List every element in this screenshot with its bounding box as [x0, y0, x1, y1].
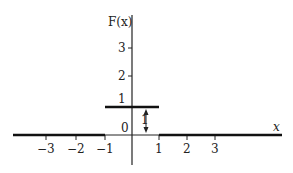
- y-axis-label: F(x): [108, 15, 132, 29]
- x-tick-label: 3: [211, 142, 219, 156]
- y-tick-label: 3: [118, 41, 126, 55]
- y-tick-label: 1: [118, 92, 126, 106]
- chart: F(x) x 0 1 1 2 3 −3 −2 −1 1 2 3: [0, 0, 293, 173]
- arrow-label: 1: [141, 113, 149, 127]
- x-tick-label: 2: [183, 142, 191, 156]
- arrow-down-icon: [144, 127, 149, 133]
- origin-label: 0: [121, 121, 129, 135]
- x-tick-label: −3: [37, 142, 55, 156]
- x-tick-label: −2: [67, 142, 85, 156]
- y-tick-label: 2: [118, 69, 126, 83]
- x-tick-label: −1: [96, 142, 114, 156]
- x-tick-label: 1: [155, 142, 163, 156]
- x-axis-label: x: [273, 120, 280, 134]
